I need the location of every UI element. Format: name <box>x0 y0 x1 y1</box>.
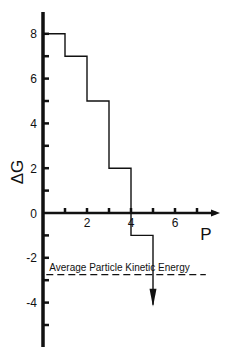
down-arrow-icon <box>150 289 157 307</box>
y-axis: 86420-2-4 <box>26 12 49 347</box>
y-tick-label: 6 <box>30 72 37 86</box>
annotations: Average Particle Kinetic Energy <box>46 262 206 275</box>
step-chart: 86420-2-4 246 Average Particle Kinetic E… <box>0 0 231 355</box>
y-tick-label: 4 <box>30 117 37 131</box>
y-tick-label: 8 <box>30 27 37 41</box>
average-kinetic-energy-label: Average Particle Kinetic Energy <box>49 262 189 273</box>
y-tick-label: -2 <box>26 251 37 265</box>
x-axis-arrow-icon <box>211 210 220 217</box>
y-tick-label: 0 <box>30 207 37 221</box>
x-tick-label: 2 <box>84 216 91 230</box>
y-tick-label: 2 <box>30 162 37 176</box>
x-axis-title: P <box>200 225 211 244</box>
y-axis-title: ΔG <box>8 160 27 185</box>
y-tick-label: -4 <box>26 296 37 310</box>
x-tick-label: 6 <box>172 216 179 230</box>
